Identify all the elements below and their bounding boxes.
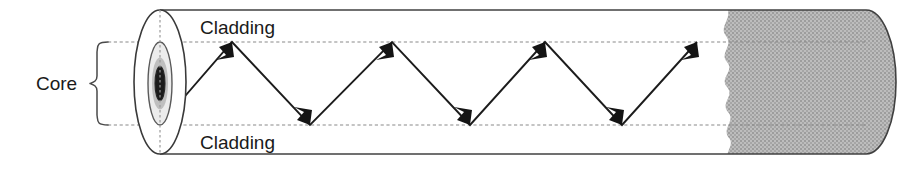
diagram-canvas: Cladding Cladding Core	[0, 0, 907, 170]
light-ray-path	[160, 42, 699, 125]
shaded-fill	[724, 6, 900, 160]
label-cladding-top: Cladding	[200, 17, 275, 38]
fiber-face-cross-section	[134, 10, 186, 155]
label-core: Core	[36, 73, 77, 94]
core-brace	[90, 42, 108, 125]
shaded-core-region	[724, 6, 900, 160]
core-brace-path	[90, 42, 108, 125]
arrowhead-3	[376, 42, 394, 60]
label-cladding-bottom: Cladding	[200, 132, 275, 153]
fiber-optic-diagram: Cladding Cladding Core	[0, 0, 907, 170]
